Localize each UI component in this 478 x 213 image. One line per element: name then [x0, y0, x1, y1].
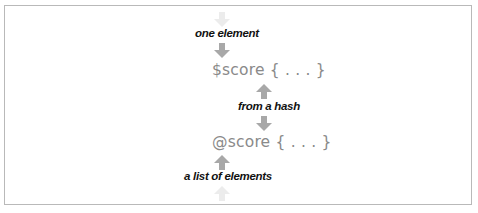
- up-arrow-icon: [214, 155, 230, 170]
- down-arrow-icon: [214, 43, 230, 58]
- label-one-element: one element: [195, 27, 259, 39]
- up-arrow-icon: [256, 84, 272, 99]
- down-arrow-icon: [256, 116, 272, 131]
- faded-down-arrow-icon: [214, 12, 230, 27]
- label-from-a-hash: from a hash: [238, 100, 300, 112]
- scalar-code: $score { . . . }: [212, 61, 326, 79]
- label-a-list-of-elements: a list of elements: [184, 170, 272, 182]
- faded-up-arrow-icon: [214, 186, 230, 201]
- array-code: @score { . . . }: [212, 133, 332, 151]
